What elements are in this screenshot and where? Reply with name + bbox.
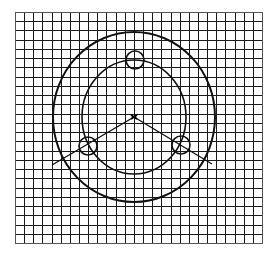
diagram-canvas [0, 0, 272, 256]
grid-paper [15, 12, 263, 244]
bolt-circle-diagram [0, 0, 272, 256]
